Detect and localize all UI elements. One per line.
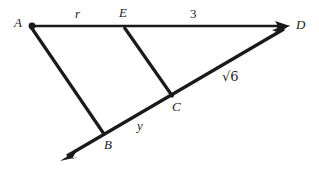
- segment-label-y: y: [137, 119, 143, 132]
- segment-A-B: [31, 27, 104, 134]
- geometry-canvas: [0, 0, 319, 171]
- vertex-label-E: E: [119, 6, 127, 19]
- vertex-label-D: D: [296, 18, 305, 31]
- vertex-label-C: C: [172, 100, 181, 113]
- segment-E-C: [124, 27, 173, 97]
- segment-label-r: r: [75, 7, 80, 20]
- ray-B-D-shaft: [67, 29, 284, 156]
- line-A-D: [31, 21, 290, 31]
- vertex-label-A: A: [14, 16, 22, 29]
- geometry-figure: A E D C B r 3 √6 y: [0, 0, 319, 171]
- vertex-dot-A: [29, 23, 36, 30]
- vertex-label-B: B: [104, 138, 112, 151]
- segment-label-sqrt6: √6: [222, 70, 239, 83]
- segment-label-3: 3: [190, 7, 197, 20]
- ray-B-D: [60, 25, 290, 161]
- arrowhead-lower-left: [60, 150, 78, 161]
